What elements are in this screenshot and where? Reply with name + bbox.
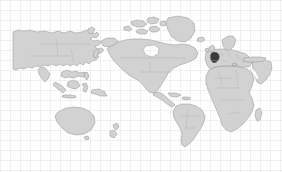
region-borneo xyxy=(67,80,80,89)
world-map-svg xyxy=(0,0,282,172)
world-map-figure xyxy=(0,0,282,172)
region-hispaniola xyxy=(182,97,191,100)
region-ireland xyxy=(205,48,209,52)
region-java xyxy=(62,95,76,98)
region-philippines xyxy=(84,72,89,80)
region-southeast-asia xyxy=(61,70,87,78)
region-kamchatka xyxy=(88,27,95,34)
region-madagascar xyxy=(255,108,262,121)
region-new-zealand xyxy=(113,123,119,130)
region-south-america xyxy=(173,104,205,147)
region-arctic-island-4 xyxy=(149,26,160,32)
region-iceland xyxy=(197,37,205,42)
region-arctic-island-3 xyxy=(136,29,148,34)
region-new-guinea xyxy=(91,89,107,96)
region-south-asia xyxy=(38,67,50,82)
region-sumatra xyxy=(53,82,66,93)
region-scandinavia xyxy=(222,36,236,50)
region-eurasia-west xyxy=(13,30,104,70)
region-africa xyxy=(206,66,254,132)
region-sulawesi xyxy=(82,83,88,92)
region-anatolia xyxy=(243,57,266,62)
region-greenland xyxy=(166,16,195,42)
region-tasmania xyxy=(84,136,89,140)
region-arctic-archipelago xyxy=(131,20,147,27)
region-cuba xyxy=(168,93,181,97)
region-arctic-island-5 xyxy=(124,26,132,31)
region-arctic-island-2 xyxy=(147,17,159,24)
region-new-zealand-south xyxy=(110,130,117,138)
region-australia xyxy=(55,107,95,135)
